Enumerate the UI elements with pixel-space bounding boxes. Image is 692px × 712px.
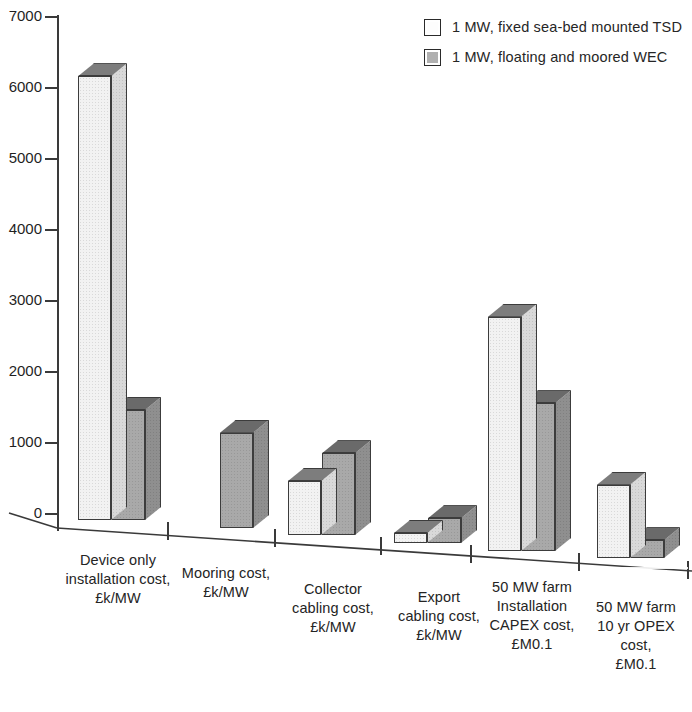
x-axis-label-line: cabling cost, bbox=[272, 599, 394, 618]
scan-artifact bbox=[596, 567, 688, 569]
x-axis-label-line: cost, bbox=[576, 636, 692, 655]
bar-side-face bbox=[111, 63, 127, 520]
x-axis-tick bbox=[57, 513, 59, 531]
x-axis-label-line: Mooring cost, bbox=[162, 564, 290, 583]
x-axis-tick bbox=[167, 522, 169, 540]
x-axis-tick bbox=[274, 529, 276, 547]
x-axis-label-line: £M0.1 bbox=[576, 655, 692, 674]
x-axis-tick bbox=[578, 553, 580, 571]
bar-chart: 1 MW, fixed sea-bed mounted TSD 1 MW, fl… bbox=[0, 0, 692, 712]
x-axis-label-line: 50 MW farm bbox=[576, 598, 692, 617]
x-axis-tick bbox=[380, 537, 382, 555]
x-axis-label-line: 10 yr OPEX bbox=[576, 617, 692, 636]
x-axis-tick bbox=[687, 561, 689, 579]
x-axis-label-2: Mooring cost,£k/MW bbox=[162, 564, 290, 602]
x-axis-tick bbox=[470, 545, 472, 563]
x-axis-label-line: £k/MW bbox=[272, 618, 394, 637]
x-axis-label-6: 50 MW farm10 yr OPEXcost,£M0.1 bbox=[576, 598, 692, 674]
bar-side-face bbox=[145, 397, 161, 520]
scan-artifact bbox=[484, 569, 578, 571]
x-axis-label-3: Collectorcabling cost,£k/MW bbox=[272, 580, 394, 637]
bar-side-face bbox=[253, 420, 269, 528]
bar-front-face bbox=[78, 76, 111, 520]
bar-white-1 bbox=[78, 76, 111, 520]
x-axis-label-line: Collector bbox=[272, 580, 394, 599]
x-axis-label-line: £k/MW bbox=[162, 583, 290, 602]
plot-area bbox=[0, 0, 692, 600]
x-axis-label-line: 50 MW farm bbox=[466, 578, 598, 597]
